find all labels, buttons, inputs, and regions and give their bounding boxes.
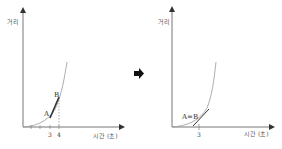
y-axis-label: 거리 — [158, 18, 170, 26]
arrow-shaft — [134, 71, 139, 76]
arrow-head-icon — [139, 68, 144, 79]
point-a-label: A — [43, 110, 50, 118]
point-ab-label: A=B — [181, 113, 198, 121]
tick-3: 3 — [48, 131, 52, 138]
x-axis-label: 시간 (초) — [93, 132, 118, 139]
left-graph: 거리 시간 (초) 3 4 A B — [7, 10, 122, 139]
distance-time-diagram: 거리 시간 (초) 3 4 A B 거리 시간 (초) 3 A=B — [0, 0, 282, 149]
point-b-label: B — [54, 91, 59, 99]
secant-ab — [50, 97, 59, 118]
y-axis-label: 거리 — [7, 18, 19, 26]
x-axis-label: 시간 (초) — [244, 130, 269, 137]
tick-4: 4 — [57, 131, 61, 138]
transition-arrow — [134, 68, 144, 79]
right-graph: 거리 시간 (초) 3 A=B — [158, 9, 272, 138]
tick-3: 3 — [197, 131, 201, 138]
